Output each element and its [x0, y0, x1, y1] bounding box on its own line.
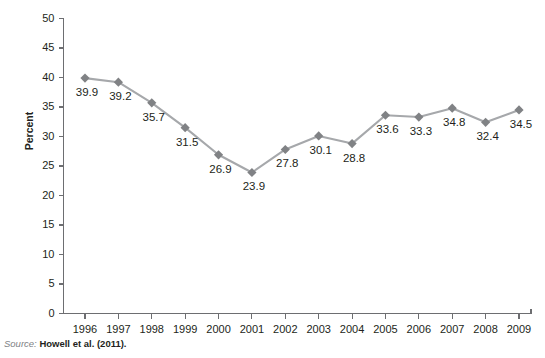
data-point-label: 33.6 — [376, 123, 398, 135]
x-axis-tick-label: 1999 — [173, 323, 197, 335]
y-axis-tick-label: 5 — [48, 277, 54, 289]
y-axis-tick-label: 20 — [42, 189, 54, 201]
y-axis-tick-label: 40 — [42, 71, 54, 83]
data-point-marker[interactable] — [80, 73, 89, 82]
data-point-label: 30.1 — [309, 144, 331, 156]
y-axis-tick-label: 30 — [42, 130, 54, 142]
x-axis-tick-label: 2003 — [306, 323, 330, 335]
chart-container: 05101520253035404550Percent1996199719981… — [0, 0, 545, 358]
data-point-label: 35.7 — [143, 111, 165, 123]
x-axis-tick-label: 2006 — [407, 323, 431, 335]
data-point-label: 34.8 — [443, 116, 465, 128]
data-point-marker[interactable] — [514, 105, 523, 114]
x-axis-tick-label: 2004 — [340, 323, 364, 335]
line-chart: 05101520253035404550Percent1996199719981… — [0, 0, 545, 358]
x-axis-tick-label: 2005 — [373, 323, 397, 335]
y-axis-tick-label: 0 — [48, 307, 54, 319]
y-axis-tick-label: 45 — [42, 41, 54, 53]
data-point-label: 23.9 — [243, 180, 265, 192]
y-axis-tick-label: 25 — [42, 159, 54, 171]
data-point-label: 27.8 — [276, 157, 298, 169]
data-point-label: 28.8 — [343, 152, 365, 164]
data-point-label: 39.9 — [76, 86, 98, 98]
data-point-label: 26.9 — [209, 163, 231, 175]
x-axis-tick-label: 2000 — [206, 323, 230, 335]
data-point-label: 39.2 — [109, 90, 131, 102]
x-axis-tick-label: 2007 — [440, 323, 464, 335]
x-axis-line — [64, 309, 532, 314]
x-axis-tick-label: 1996 — [73, 323, 97, 335]
y-axis-title: Percent — [23, 111, 35, 150]
source-note: Source: Howell et al. (2011). — [4, 338, 127, 350]
data-point-marker[interactable] — [314, 131, 323, 140]
data-point-marker[interactable] — [414, 112, 423, 121]
x-axis-tick-label: 2009 — [507, 323, 531, 335]
data-point-label: 33.3 — [410, 125, 432, 137]
x-axis-tick-label: 2008 — [473, 323, 497, 335]
y-axis-tick-label: 35 — [42, 100, 54, 112]
data-point-label: 32.4 — [476, 130, 499, 142]
x-axis-tick-label: 2002 — [273, 323, 297, 335]
data-point-marker[interactable] — [481, 118, 490, 127]
source-label: Source: — [4, 338, 37, 349]
x-axis-tick-label: 1998 — [140, 323, 164, 335]
x-axis-tick-label: 1997 — [106, 323, 130, 335]
data-point-label: 34.5 — [510, 118, 532, 130]
y-axis-tick-label: 10 — [42, 248, 54, 260]
y-axis-tick-label: 50 — [42, 12, 54, 24]
x-axis-tick-label: 2001 — [240, 323, 264, 335]
data-point-marker[interactable] — [448, 104, 457, 113]
data-point-label: 31.5 — [176, 136, 198, 148]
y-axis-tick-label: 15 — [42, 218, 54, 230]
source-text: Howell et al. (2011). — [39, 338, 126, 349]
